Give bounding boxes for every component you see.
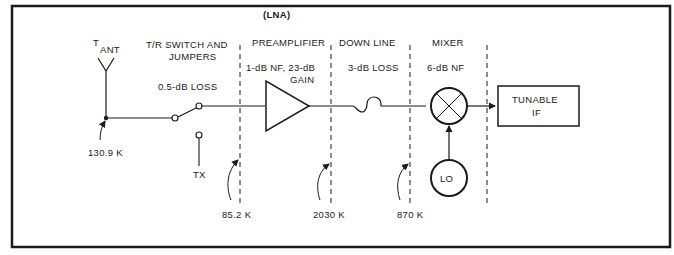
downline-cable-icon: [309, 97, 426, 112]
ref-temp-1: 85.2 K: [222, 209, 252, 220]
stage-tr-switch-title-1: T/R SWITCH AND: [146, 39, 228, 50]
stage-downline-spec: 3-dB LOSS: [348, 62, 399, 73]
ref-arrow-2: [318, 164, 329, 200]
tunable-if-line1: TUNABLE: [512, 94, 558, 105]
stage-downline-title: DOWN LINE: [339, 37, 396, 48]
antenna-label-main: T: [93, 37, 99, 48]
tr-switch-icon: [172, 103, 202, 166]
antenna-label-sub: ANT: [100, 44, 120, 55]
receiver-noise-diagram: T ANT 130.9 K TX T/R SWITCH AND JUMPERS …: [0, 0, 674, 255]
amplifier-icon: [266, 81, 309, 131]
antenna-temp-arrow: [100, 121, 105, 140]
ref-arrow-1: [228, 160, 238, 200]
antenna-temperature: 130.9 K: [88, 147, 123, 158]
stage-mixer-title: MIXER: [432, 37, 464, 48]
mixer-icon: [431, 88, 467, 124]
ref-temp-2: 2030 K: [313, 209, 345, 220]
stage-lna-tag: (LNA): [263, 9, 290, 20]
stage-lna-spec-1: 1-dB NF, 23-dB: [246, 62, 315, 73]
stage-mixer-spec: 6-dB NF: [427, 62, 464, 73]
tx-label: TX: [193, 169, 206, 180]
ref-temp-3: 870 K: [397, 209, 424, 220]
stage-tr-switch-title-2: JUMPERS: [169, 51, 217, 62]
ref-arrow-3: [398, 164, 408, 200]
lo-label: LO: [440, 173, 453, 184]
stage-tr-switch-spec: 0.5-dB LOSS: [158, 81, 217, 92]
tunable-if-line2: IF: [532, 107, 541, 118]
stage-lna-spec-2: GAIN: [290, 74, 314, 85]
diagram-frame: [12, 6, 670, 127]
stage-lna-title: PREAMPLIFIER: [252, 37, 325, 48]
antenna-icon: [98, 58, 114, 117]
tunable-if-block: [498, 86, 579, 126]
